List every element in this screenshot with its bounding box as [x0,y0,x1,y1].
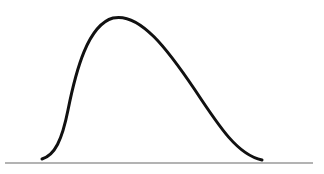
skewed-distribution-diagram [0,0,324,174]
background [0,0,324,174]
diagram-canvas [0,0,324,174]
